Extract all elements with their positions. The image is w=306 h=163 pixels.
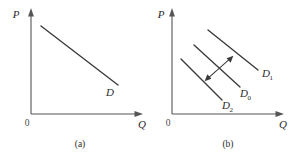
panel-b-curve-label-d1-subscript: 1 [270, 74, 274, 82]
panel-b-curve-label-d0: D 0 [239, 87, 252, 102]
panel-a-x-axis [31, 111, 143, 117]
figure-root: P Q 0 D (a) [0, 0, 306, 163]
panel-b-curve-label-d1: D 1 [261, 67, 274, 82]
panel-b-x-axis-label: Q [279, 118, 287, 130]
demand-curve-figure: P Q 0 D (a) [0, 0, 306, 163]
panel-b-curve-label-d2: D 2 [221, 99, 234, 114]
panel-b-shift-arrow-head-down [205, 74, 212, 81]
panel-a-y-axis-arrowhead [28, 8, 34, 17]
panel-a-x-axis-label: Q [138, 118, 146, 130]
panel-b-curve-label-d2-subscript: 2 [230, 106, 234, 114]
panel-b-y-axis-arrowhead [169, 8, 175, 17]
panel-a-demand-curve-d [41, 26, 118, 85]
panel-b-curve-label-d0-subscript: 0 [248, 94, 252, 102]
panel-b-demand-curve-d0 [194, 45, 240, 87]
panel-a: P Q 0 D (a) [12, 8, 146, 150]
panel-a-y-axis-label: P [12, 8, 20, 20]
panel-b-shift-arrow-head-up [227, 56, 234, 63]
panel-b-x-axis-arrowhead [276, 111, 285, 117]
panel-a-origin-label: 0 [25, 118, 30, 128]
panel-a-x-axis-arrowhead [135, 111, 144, 117]
panel-b-caption: (b) [222, 139, 233, 150]
panel-b: P Q 0 D 1 D 0 D 2 (b) [157, 8, 287, 150]
panel-a-curve-label-d: D [105, 86, 114, 98]
panel-b-y-axis [169, 8, 175, 114]
panel-b-origin-label: 0 [166, 118, 171, 128]
panel-a-y-axis [28, 8, 34, 114]
panel-a-caption: (a) [75, 139, 86, 150]
panel-b-x-axis [172, 111, 284, 117]
panel-b-y-axis-label: P [157, 8, 165, 20]
